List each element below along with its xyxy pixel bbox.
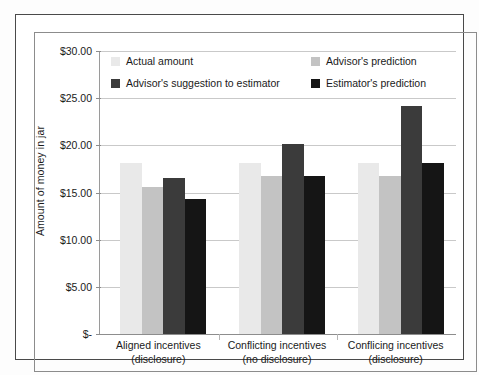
y-axis-tick-label: $10.00 — [38, 234, 92, 246]
y-axis-tickmark — [96, 193, 101, 194]
bar[interactable] — [239, 163, 261, 334]
x-axis-label-line2: (disclosure) — [99, 353, 218, 367]
y-axis-tick-label: $25.00 — [38, 92, 92, 104]
legend-item-label: Estimator's prediction — [326, 77, 426, 89]
y-axis-tick-label: $20.00 — [38, 139, 92, 151]
y-axis-tickmark — [96, 240, 101, 241]
legend-item-label: Advisor's prediction — [326, 55, 417, 67]
bar[interactable] — [185, 199, 207, 334]
axis-baseline — [100, 334, 456, 335]
x-axis-category-label: Aligned incentives(disclosure) — [99, 339, 218, 366]
x-axis-label-line1: Conflicing incentives — [348, 339, 444, 351]
x-axis-category-label: Conflicing incentives(disclosure) — [336, 339, 455, 366]
bar[interactable] — [401, 106, 423, 334]
y-axis-tickmark — [96, 51, 101, 52]
bar[interactable] — [358, 163, 380, 334]
plot-area: Actual amountAdvisor's predictionAdvisor… — [99, 51, 455, 334]
y-axis-tickmark — [96, 98, 101, 99]
y-axis-tickmark — [96, 334, 101, 335]
bar[interactable] — [282, 144, 304, 334]
bar[interactable] — [120, 163, 142, 334]
bar[interactable] — [163, 178, 185, 334]
y-axis-tickmark — [96, 145, 101, 146]
bar[interactable] — [261, 176, 283, 334]
y-axis-tickmark — [96, 287, 101, 288]
x-axis-category-labels: Aligned incentives(disclosure)Conflictin… — [99, 339, 455, 373]
y-axis-tick-label: $5.00 — [38, 281, 92, 293]
y-axis-tick-label: $30.00 — [38, 45, 92, 57]
legend-color-swatch — [311, 57, 320, 66]
figure-outer-border: Amount of money in jar $30.00$25.00$20.0… — [15, 14, 464, 360]
x-axis-label-line2: (disclosure) — [336, 353, 455, 367]
y-axis-tick-labels: $30.00$25.00$20.00$15.00$10.00$5.00$- — [38, 45, 92, 340]
y-axis-tick-label: $15.00 — [38, 187, 92, 199]
chart-legend: Actual amountAdvisor's predictionAdvisor… — [111, 55, 443, 100]
legend-item-label: Actual amount — [126, 55, 193, 67]
bar[interactable] — [142, 187, 164, 334]
x-axis-label-line1: Aligned incentives — [116, 339, 201, 351]
legend-color-swatch — [111, 79, 120, 88]
legend-item[interactable]: Advisor's suggestion to estimator — [111, 77, 280, 89]
legend-item[interactable]: Estimator's prediction — [311, 77, 426, 89]
x-axis-label-line2: (no disclosure) — [218, 353, 337, 367]
legend-color-swatch — [111, 57, 120, 66]
bar[interactable] — [422, 163, 444, 334]
legend-item[interactable]: Actual amount — [111, 55, 193, 67]
bar-chart-figure: Amount of money in jar $30.00$25.00$20.0… — [0, 0, 479, 375]
y-axis-tick-label: $- — [38, 328, 92, 340]
legend-color-swatch — [311, 79, 320, 88]
legend-item-label: Advisor's suggestion to estimator — [126, 77, 280, 89]
legend-item[interactable]: Advisor's prediction — [311, 55, 417, 67]
x-axis-label-line1: Conflicting incentives — [228, 339, 327, 351]
bar[interactable] — [304, 176, 326, 334]
x-axis-category-label: Conflicting incentives(no disclosure) — [218, 339, 337, 366]
bar[interactable] — [379, 176, 401, 334]
